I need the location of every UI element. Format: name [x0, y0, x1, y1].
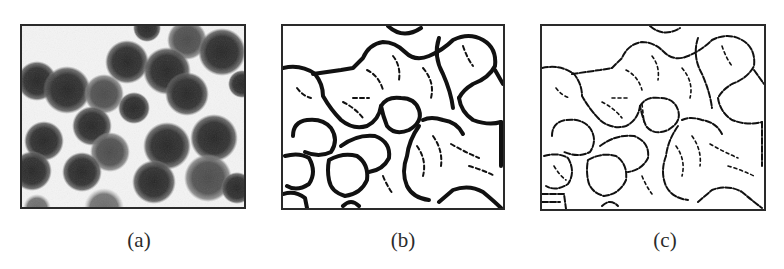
panel-c-caption: (c) — [635, 226, 695, 254]
thick-edge-map — [283, 26, 503, 208]
panel-c-image — [540, 24, 766, 211]
panel-a-image — [20, 24, 246, 209]
panel-b-caption: (b) — [373, 226, 433, 254]
panel-b-image — [281, 24, 505, 210]
panel-a-caption: (a) — [109, 226, 169, 254]
thin-edge-map — [542, 26, 764, 209]
cell-micrograph — [22, 26, 244, 207]
